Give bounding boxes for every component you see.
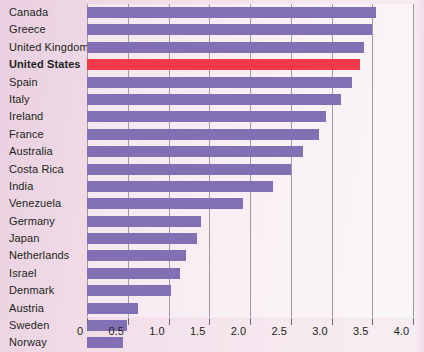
bar-netherlands: [87, 250, 186, 261]
bar-israel: [87, 268, 180, 279]
x-label-3.5: 3.5: [353, 325, 371, 337]
bar-row: [87, 161, 413, 178]
bar-row: [87, 230, 413, 247]
bar-row: [87, 247, 413, 264]
bar-united-kingdom: [87, 42, 364, 53]
x-label-2.5: 2.5: [271, 325, 289, 337]
bar-row: [87, 213, 413, 230]
bar-row: [87, 178, 413, 195]
category-label-israel: Israel: [0, 265, 84, 282]
category-label-france: France: [0, 126, 84, 143]
bar-row: [87, 108, 413, 125]
x-tick-0.5: [128, 318, 129, 325]
category-label-australia: Australia: [0, 143, 84, 160]
x-tick-1.5: [209, 318, 210, 325]
x-label-1.5: 1.5: [190, 325, 208, 337]
x-tick-2.0: [250, 318, 251, 325]
bar-row: [87, 265, 413, 282]
bar-japan: [87, 233, 197, 244]
bar-denmark: [87, 285, 171, 296]
bar-australia: [87, 146, 303, 157]
value-axis: 00.51.01.52.02.53.03.54.0: [0, 318, 424, 348]
bar-costa-rica: [87, 164, 291, 175]
category-axis-labels: CanadaGreeceUnited KingdomUnited StatesS…: [0, 4, 84, 317]
category-label-japan: Japan: [0, 230, 84, 247]
bar-row: [87, 143, 413, 160]
bar-row: [87, 126, 413, 143]
bar-row: [87, 74, 413, 91]
plot-area: [87, 4, 413, 317]
bar-row: [87, 195, 413, 212]
bar-row: [87, 282, 413, 299]
category-label-costa-rica: Costa Rica: [0, 161, 84, 178]
category-label-india: India: [0, 178, 84, 195]
x-label-4.0: 4.0: [394, 325, 412, 337]
x-label-0.5: 0.5: [108, 325, 126, 337]
bar-row: [87, 91, 413, 108]
category-label-italy: Italy: [0, 91, 84, 108]
bar-row: [87, 300, 413, 317]
x-label-2.0: 2.0: [231, 325, 249, 337]
bar-spain: [87, 77, 352, 88]
bar-france: [87, 129, 319, 140]
category-label-germany: Germany: [0, 213, 84, 230]
bar-chart-figure: CanadaGreeceUnited KingdomUnited StatesS…: [0, 0, 424, 352]
bar-germany: [87, 216, 201, 227]
x-tick-2.5: [291, 318, 292, 325]
bar-austria: [87, 303, 138, 314]
bar-row: [87, 21, 413, 38]
x-label-1.0: 1.0: [149, 325, 167, 337]
bar-india: [87, 181, 273, 192]
bar-italy: [87, 94, 341, 105]
x-tick-1.0: [169, 318, 170, 325]
category-label-united-kingdom: United Kingdom: [0, 39, 84, 56]
category-label-spain: Spain: [0, 74, 84, 91]
bar-row: [87, 56, 413, 73]
x-tick-0: [87, 318, 88, 325]
category-label-denmark: Denmark: [0, 282, 84, 299]
category-label-ireland: Ireland: [0, 108, 84, 125]
bar-venezuela: [87, 198, 243, 209]
page-edge-shading: [414, 0, 424, 352]
category-label-austria: Austria: [0, 300, 84, 317]
x-tick-3.0: [332, 318, 333, 325]
x-tick-3.5: [372, 318, 373, 325]
bar-canada: [87, 7, 376, 18]
bar-row: [87, 4, 413, 21]
bar-ireland: [87, 111, 326, 122]
category-label-united-states: United States: [0, 56, 84, 73]
category-label-venezuela: Venezuela: [0, 195, 84, 212]
bar-united-states: [87, 59, 360, 70]
category-label-netherlands: Netherlands: [0, 247, 84, 264]
bar-row: [87, 39, 413, 56]
x-label-3.0: 3.0: [312, 325, 330, 337]
bar-greece: [87, 24, 372, 35]
bar-rows: [87, 4, 413, 317]
x-label-0: 0: [77, 325, 86, 337]
category-label-greece: Greece: [0, 21, 84, 38]
category-label-canada: Canada: [0, 4, 84, 21]
